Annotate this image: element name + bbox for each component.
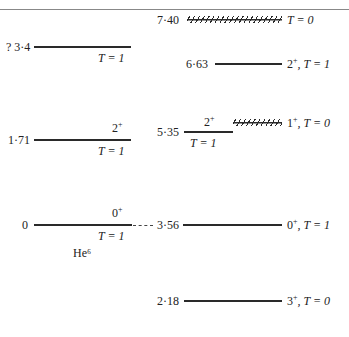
level-spec: 2+, T = 1 [287, 58, 330, 70]
isospin-label: T = 1 [98, 52, 125, 64]
level-line-6-63 [215, 63, 282, 65]
level-line-1-71 [34, 139, 131, 141]
level-hatched-7-40 [187, 16, 282, 23]
level-energy-2-18: 2·18 [157, 295, 179, 307]
level-energy-3-56: 3·56 [157, 219, 179, 231]
header-rule [0, 9, 349, 10]
isospin-label: T = 1 [98, 145, 125, 157]
level-energy-0: 0 [22, 219, 28, 231]
isospin-label: T = 1 [190, 137, 217, 149]
isospin-label: T = 1 [98, 230, 125, 242]
level-spec: 0+, T = 1 [287, 219, 330, 231]
level-spec: 1+, T = 0 [287, 117, 330, 129]
level-line-5-35 [184, 131, 233, 133]
spin-parity-label: 2+ [204, 116, 215, 128]
level-hatched-5-35 [233, 119, 282, 126]
level-line-3-56 [183, 224, 282, 226]
level-line-3-4 [34, 46, 131, 48]
level-energy-7-40: 7·40 [157, 14, 179, 26]
level-line-0 [34, 224, 132, 226]
connector-dashed [133, 225, 153, 226]
level-energy-3-4: ? 3·4 [6, 41, 30, 53]
spin-parity-label: 2+ [112, 122, 123, 134]
level-line-2-18 [184, 300, 282, 302]
level-energy-5-35: 5·35 [157, 126, 179, 138]
level-energy-1-71: 1·71 [8, 134, 30, 146]
level-energy-6-63: 6·63 [186, 58, 208, 70]
isospin-label: T = 0 [287, 14, 314, 26]
spin-parity-label: 0+ [112, 207, 123, 219]
nucleus-label-he6: He⁶ [73, 247, 91, 259]
level-spec: 3+, T = 0 [287, 295, 330, 307]
